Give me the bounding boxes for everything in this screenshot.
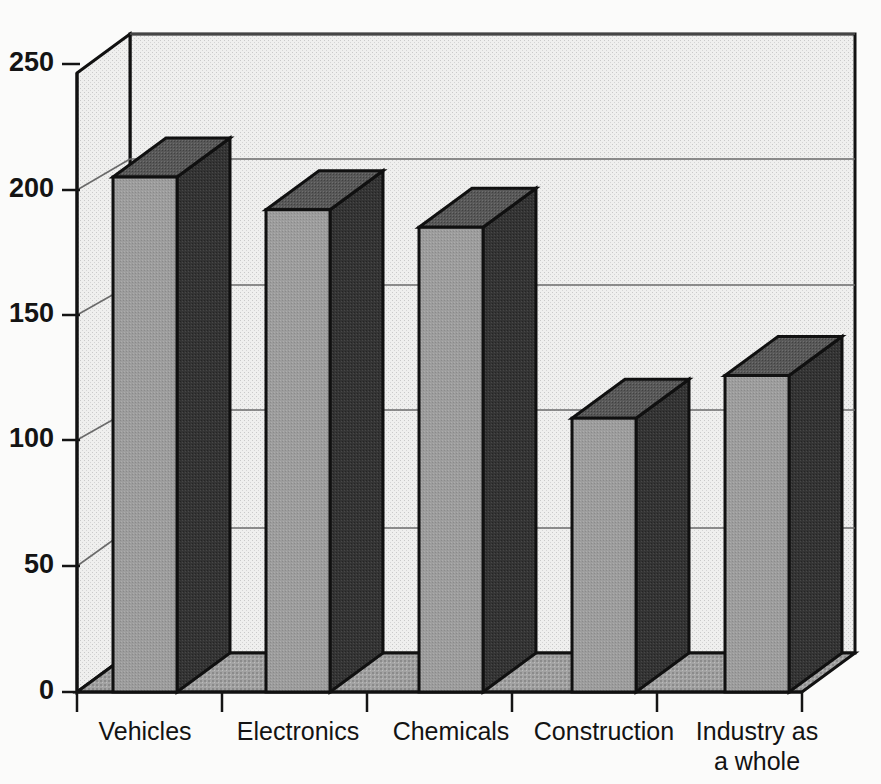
y-axis-group: 250 200 150 100 50 0 [9, 47, 80, 705]
bar-column [113, 138, 230, 692]
bar-column [725, 336, 842, 692]
bar-front-face [113, 177, 177, 692]
category-label: Electronics [237, 717, 359, 745]
bar-side-face [330, 171, 383, 692]
x-axis-labels: VehiclesElectronicsChemicalsConstruction… [98, 717, 818, 775]
ytick-label-200: 200 [9, 173, 54, 203]
bar-side-face [483, 188, 536, 692]
ytick-label-0: 0 [39, 675, 54, 705]
bar-front-face [725, 375, 789, 692]
ytick-label-50: 50 [24, 549, 54, 579]
bar-side-face [177, 138, 230, 692]
chart-container: 250 200 150 100 50 0 VehiclesElectronics… [0, 0, 881, 784]
bar-front-face [572, 418, 636, 692]
category-label: Chemicals [393, 717, 510, 745]
category-label: Industry asa whole [696, 717, 818, 775]
column-chart-3d: 250 200 150 100 50 0 VehiclesElectronics… [0, 0, 881, 784]
bar-side-face [636, 379, 689, 692]
x-axis-ticks [77, 692, 802, 712]
bar-column [266, 171, 383, 692]
bar-column [572, 379, 689, 692]
bar-front-face [419, 227, 483, 692]
ytick-label-150: 150 [9, 298, 54, 328]
bar-front-face [266, 210, 330, 692]
category-label: Vehicles [98, 717, 191, 745]
ytick-label-100: 100 [9, 423, 54, 453]
bar-column [419, 188, 536, 692]
ytick-label-250: 250 [9, 47, 54, 77]
category-label: Construction [534, 717, 674, 745]
bar-side-face [789, 336, 842, 692]
